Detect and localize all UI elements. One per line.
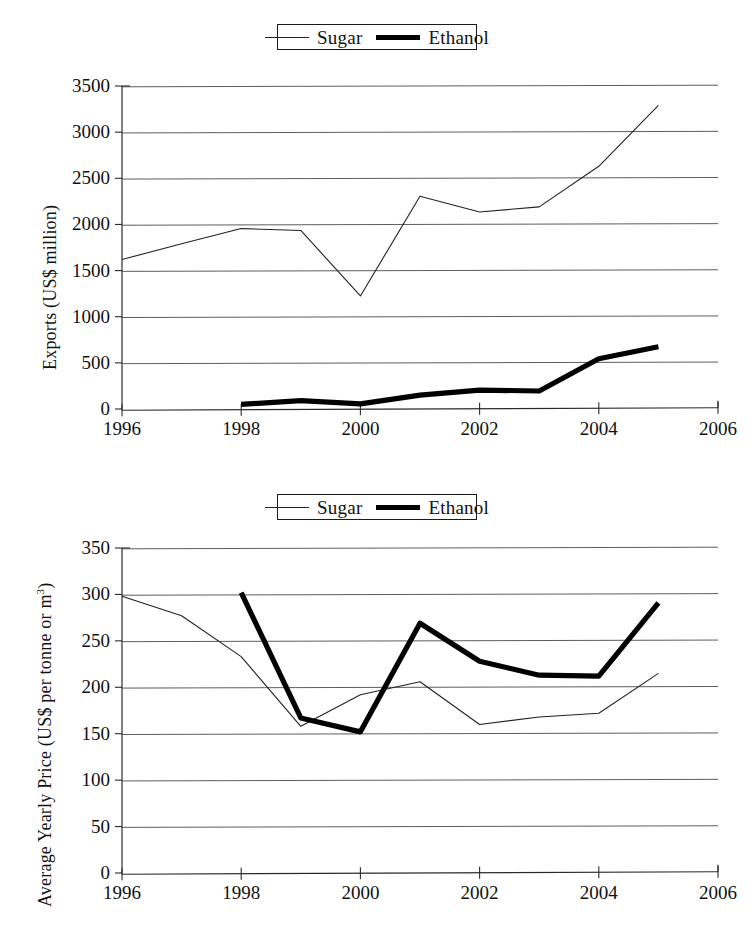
gridline — [122, 826, 718, 828]
x-axis-tick-label: 2004 — [563, 419, 635, 438]
plot-svg-exports — [0, 0, 755, 467]
gridline — [122, 779, 718, 781]
y-axis-tick-label: 250 — [44, 631, 110, 650]
y-axis-tick-label: 1000 — [44, 307, 110, 326]
x-axis-tick-label: 1996 — [86, 883, 158, 902]
x-axis-tick-label: 2002 — [444, 883, 516, 902]
series-line-sugar — [122, 105, 658, 296]
series-line-ethanol — [241, 593, 658, 732]
chart-price: Sugar Ethanol Average Yearly Price (US$ … — [0, 467, 755, 934]
y-axis-tick-label: 2000 — [44, 214, 110, 233]
x-axis-tick-label: 1998 — [205, 883, 277, 902]
x-axis-line — [122, 872, 718, 874]
chart-exports: Sugar Ethanol Exports (US$ million) 0500… — [0, 0, 755, 467]
plot-area-exports — [0, 0, 755, 467]
x-axis-tick-label: 2004 — [563, 883, 635, 902]
x-axis-tick-label: 2002 — [444, 419, 516, 438]
x-axis-tick-label: 2006 — [682, 419, 754, 438]
plot-svg-price — [0, 467, 755, 934]
x-axis-tick-label: 1996 — [86, 419, 158, 438]
x-axis-tick-label: 2000 — [324, 883, 396, 902]
gridline — [122, 85, 718, 87]
y-axis-tick-label: 350 — [44, 538, 110, 557]
gridline — [122, 686, 718, 688]
gridline — [122, 362, 718, 364]
gridline — [122, 224, 718, 226]
series-line-sugar — [122, 596, 658, 726]
y-axis-tick-label: 1500 — [44, 261, 110, 280]
y-axis-tick-label: 100 — [44, 770, 110, 789]
series-line-ethanol — [241, 347, 658, 405]
gridline — [122, 733, 718, 735]
y-axis-tick-label: 2500 — [44, 168, 110, 187]
gridline — [122, 131, 718, 133]
plot-area-price — [0, 467, 755, 934]
gridline — [122, 270, 718, 272]
x-axis-tick-label: 1998 — [205, 419, 277, 438]
y-axis-tick-label: 0 — [44, 399, 110, 418]
y-axis-tick-label: 3000 — [44, 122, 110, 141]
gridline — [122, 547, 718, 549]
gridline — [122, 316, 718, 318]
x-axis-tick-label: 2000 — [324, 419, 396, 438]
y-axis-tick-label: 50 — [44, 817, 110, 836]
x-axis-tick-label: 2006 — [682, 883, 754, 902]
y-axis-tick-label: 300 — [44, 584, 110, 603]
y-axis-tick-label: 150 — [44, 724, 110, 743]
gridline — [122, 177, 718, 179]
x-axis-line — [122, 408, 718, 410]
y-axis-tick-label: 3500 — [44, 76, 110, 95]
y-axis-tick-label: 200 — [44, 677, 110, 696]
y-axis-tick-label: 0 — [44, 863, 110, 882]
y-axis-tick-label: 500 — [44, 353, 110, 372]
gridline — [122, 594, 718, 596]
